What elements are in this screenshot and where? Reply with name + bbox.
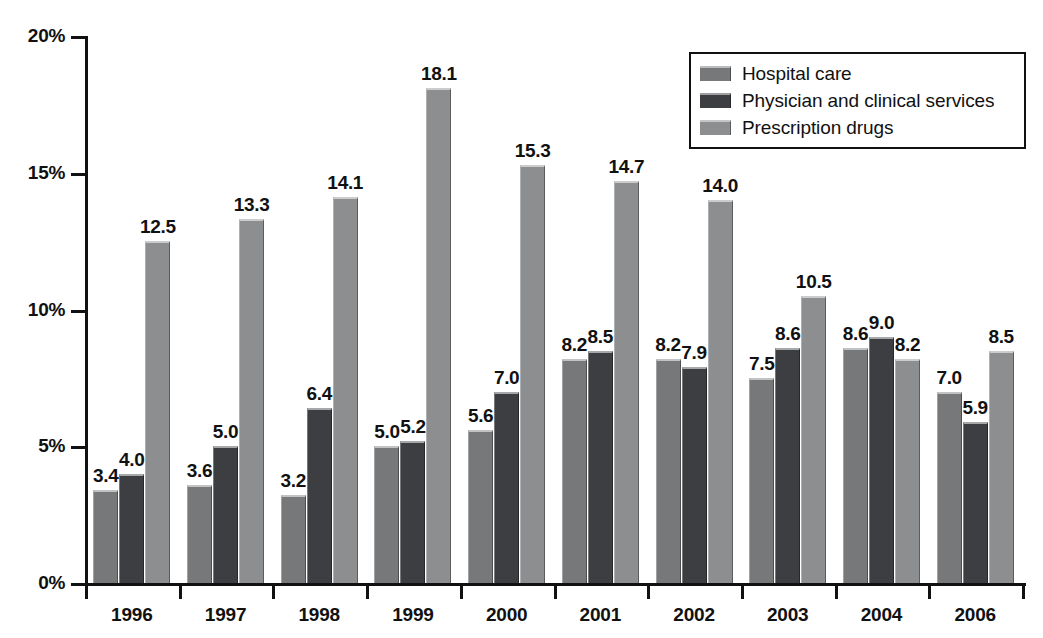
bar [374,446,399,583]
bar [682,367,707,583]
x-axis-tick [928,586,931,599]
x-axis-tick-label: 2000 [460,604,554,626]
x-axis-tick-label: 1997 [179,604,273,626]
bar [426,88,451,583]
bar [562,359,587,583]
bar-value-label: 14.1 [325,172,366,194]
bar [937,392,962,583]
bar [333,197,358,583]
x-axis-tick-label: 2003 [741,604,835,626]
bar-shading [989,351,1014,583]
legend-item-label: Hospital care [742,63,852,85]
legend-item[interactable]: Physician and clinical services [700,87,1010,114]
bar [749,378,774,583]
bar-value-label: 12.5 [137,216,178,238]
bar [843,348,868,583]
x-axis-tick [366,586,369,599]
legend-item[interactable]: Hospital care [700,60,1010,87]
bar-shading [494,392,519,583]
bar-value-label: 13.3 [231,194,272,216]
bar [400,441,425,583]
bar-shading [468,430,493,583]
bar-shading [656,359,681,583]
bar [494,392,519,583]
bar [869,337,894,583]
x-axis-tick-label: 1996 [85,604,179,626]
bar-shading [187,485,212,583]
bar-shading [426,88,451,583]
bar-value-label: 9.0 [861,312,902,334]
bar [307,408,332,583]
bar [145,241,170,583]
x-axis-tick-label: 1999 [366,604,460,626]
x-axis-tick [741,586,744,599]
bar [656,359,681,583]
x-axis-tick-label: 2002 [647,604,741,626]
bar-value-label: 14.7 [606,156,647,178]
legend-item[interactable]: Prescription drugs [700,114,1010,141]
bar-shading [775,348,800,583]
legend-swatch-icon [700,120,731,135]
bar-chart: 0%5%10%15%20% 19961997199819992000200120… [0,0,1043,638]
x-axis-tick [647,586,650,599]
x-axis-tick [272,586,275,599]
bar [614,181,639,583]
bar-shading [145,241,170,583]
bar-shading [400,441,425,583]
bar-value-label: 18.1 [418,63,459,85]
bar [963,422,988,583]
legend-item-label: Physician and clinical services [742,90,994,112]
bar-shading [307,408,332,583]
x-axis-tick [179,586,182,599]
bar-shading [520,165,545,583]
bar [895,359,920,583]
bar [119,474,144,583]
bar [468,430,493,583]
bar-value-label: 15.3 [512,140,553,162]
bar-shading [588,351,613,583]
bar-shading [374,446,399,583]
x-axis-tick-label: 2001 [554,604,648,626]
x-axis-tick-label: 2006 [928,604,1022,626]
bar-shading [93,490,118,583]
bar-shading [749,378,774,583]
bar-shading [682,367,707,583]
bar-value-label: 14.0 [700,175,741,197]
x-axis-tick [85,586,88,599]
bar [213,446,238,583]
bar-shading [239,219,264,583]
bar [775,348,800,583]
bar-shading [937,392,962,583]
legend-swatch-icon [700,93,731,108]
bar [281,495,306,583]
x-axis-tick [1022,586,1025,599]
x-axis-tick-label: 2004 [835,604,929,626]
bar [93,490,118,583]
bar [801,296,826,583]
bar-shading [843,348,868,583]
bar-shading [333,197,358,583]
bar-shading [869,337,894,583]
x-axis-tick [554,586,557,599]
bar-shading [562,359,587,583]
bar [588,351,613,583]
bar-value-label: 7.0 [929,367,970,389]
bar [239,219,264,583]
bar-value-label: 8.2 [887,334,928,356]
bar [708,200,733,583]
bar-shading [895,359,920,583]
bar-shading [963,422,988,583]
bar-value-label: 8.5 [981,326,1022,348]
bar [520,165,545,583]
x-axis-tick [835,586,838,599]
bar-shading [801,296,826,583]
x-axis-tick-label: 1998 [272,604,366,626]
bar-shading [213,446,238,583]
bar-shading [708,200,733,583]
bar-value-label: 10.5 [793,271,834,293]
bar [989,351,1014,583]
bar-shading [119,474,144,583]
bar-shading [614,181,639,583]
bar-shading [281,495,306,583]
legend-item-label: Prescription drugs [742,117,893,139]
